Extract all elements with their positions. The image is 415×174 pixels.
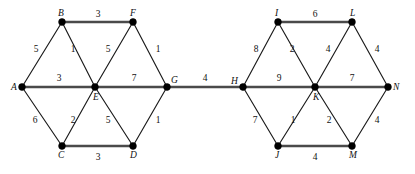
node-i	[275, 19, 282, 26]
edge-l-n	[352, 22, 388, 87]
edge-weight-i-l: 6	[313, 9, 318, 19]
edge-weight-j-m: 4	[313, 152, 318, 162]
edge-weight-j-k: 1	[291, 115, 296, 125]
edge-e-f	[95, 22, 133, 87]
edge-h-j	[243, 87, 278, 146]
graph-canvas: 5313517625134862944771244 ABCDEFGHIJKLMN	[0, 0, 415, 174]
edge-a-c	[22, 87, 62, 146]
node-label-c: C	[58, 150, 65, 160]
node-label-k: K	[312, 92, 320, 102]
edge-j-k	[278, 87, 315, 146]
node-c	[59, 143, 66, 150]
edge-weight-i-k: 2	[290, 44, 295, 54]
edge-f-g	[133, 22, 167, 87]
node-label-f: F	[129, 8, 136, 18]
node-j	[275, 143, 282, 150]
edge-weight-d-g: 1	[156, 115, 161, 125]
node-d	[130, 143, 137, 150]
node-label-l: L	[349, 8, 355, 18]
edge-weight-k-n: 7	[350, 73, 355, 83]
edge-weight-k-m: 2	[327, 115, 332, 125]
node-e	[92, 84, 99, 91]
node-label-e: E	[92, 92, 99, 102]
edge-weight-e-d: 5	[106, 115, 111, 125]
node-k	[312, 84, 319, 91]
edge-d-g	[133, 87, 167, 146]
edge-weight-l-n: 4	[375, 44, 380, 54]
edge-b-e	[62, 22, 95, 87]
edge-weight-m-n: 4	[375, 115, 380, 125]
nodes-layer	[19, 19, 392, 150]
edge-c-e	[62, 87, 95, 146]
edge-k-l	[315, 22, 352, 87]
node-label-h: H	[230, 76, 239, 86]
node-m	[349, 143, 356, 150]
edge-weight-h-j: 7	[253, 115, 258, 125]
edge-k-m	[315, 87, 352, 146]
node-label-b: B	[58, 8, 64, 18]
edge-h-i	[243, 22, 278, 87]
node-h	[240, 84, 247, 91]
edge-weight-a-e: 3	[57, 73, 62, 83]
weighted-graph-figure: 5313517625134862944771244 ABCDEFGHIJKLMN	[0, 0, 415, 174]
edge-e-d	[95, 87, 133, 146]
edge-weight-c-e: 2	[71, 115, 76, 125]
edge-weight-a-c: 6	[33, 115, 38, 125]
node-label-j: J	[275, 150, 280, 160]
node-label-a: A	[10, 82, 17, 92]
edges-layer	[22, 22, 388, 146]
edge-weight-e-f: 5	[106, 44, 111, 54]
edge-weight-e-g: 7	[132, 73, 137, 83]
node-a	[19, 84, 26, 91]
node-g	[164, 84, 171, 91]
node-labels-layer: ABCDEFGHIJKLMN	[10, 8, 400, 160]
node-label-d: D	[129, 150, 137, 160]
node-l	[349, 19, 356, 26]
edge-weight-h-i: 8	[254, 44, 259, 54]
edge-weight-b-f: 3	[96, 9, 101, 19]
edge-weight-g-h: 4	[203, 73, 208, 83]
edge-weight-h-k: 9	[277, 73, 282, 83]
node-b	[59, 19, 66, 26]
node-label-n: N	[392, 82, 400, 92]
node-n	[385, 84, 392, 91]
edge-weight-b-e: 1	[71, 44, 76, 54]
edge-weight-labels-layer: 5313517625134862944771244	[33, 9, 380, 162]
node-label-i: I	[274, 8, 279, 18]
edge-weight-a-b: 5	[34, 44, 39, 54]
edge-weight-c-d: 3	[96, 152, 101, 162]
node-label-m: M	[348, 150, 358, 160]
edge-weight-f-g: 1	[156, 44, 161, 54]
edge-i-k	[278, 22, 315, 87]
edge-m-n	[352, 87, 388, 146]
node-label-g: G	[171, 75, 178, 85]
edge-weight-k-l: 4	[326, 44, 331, 54]
node-f	[130, 19, 137, 26]
